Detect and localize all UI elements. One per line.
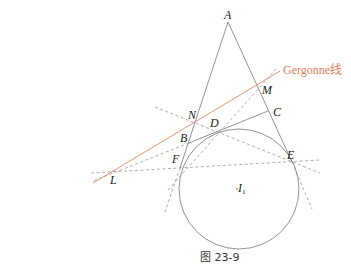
label-D: D <box>210 117 219 129</box>
label-N: N <box>188 109 196 121</box>
label-L: L <box>110 174 117 186</box>
label-I1: I1 <box>238 182 246 196</box>
label-A: A <box>224 9 231 21</box>
label-C: C <box>273 106 281 118</box>
label-F: F <box>172 153 179 165</box>
line-LFE-dashed <box>91 160 320 173</box>
label-E: E <box>287 149 294 161</box>
label-I-subscript: 1 <box>242 188 246 196</box>
figure-caption: 图 23-9 <box>200 252 239 263</box>
gergonne-label: Gergonne线 <box>283 64 342 76</box>
label-B: B <box>180 132 187 144</box>
line-AB <box>180 22 228 168</box>
label-M: M <box>262 84 272 96</box>
line-BC <box>189 111 268 143</box>
line-AC <box>228 22 292 162</box>
geometry-diagram: A Gergonne线 M C N D B F E L I1 图 23-9 <box>0 0 351 272</box>
ext-AC-dashed <box>292 162 312 209</box>
ext-AB-dashed <box>165 168 180 212</box>
gergonne-line <box>93 71 280 183</box>
diagram-svg <box>0 0 351 272</box>
